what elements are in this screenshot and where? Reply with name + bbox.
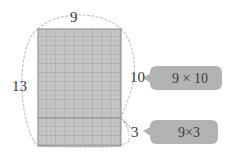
dimension-label-right-upper: 10 [130,70,145,85]
callout-expression-lower: 9×3 [178,126,200,140]
dimension-label-top-width: 9 [70,10,78,25]
dashed-curve-top [38,15,121,29]
callout-expression-upper: 9 × 10 [172,72,208,86]
dimension-label-right-lower: 3 [131,125,139,140]
dimension-label-left-height: 13 [12,79,27,94]
diagram-canvas: 9 13 10 3 9 × 10 9×3 [0,0,231,156]
area-model-rectangle [38,29,121,146]
